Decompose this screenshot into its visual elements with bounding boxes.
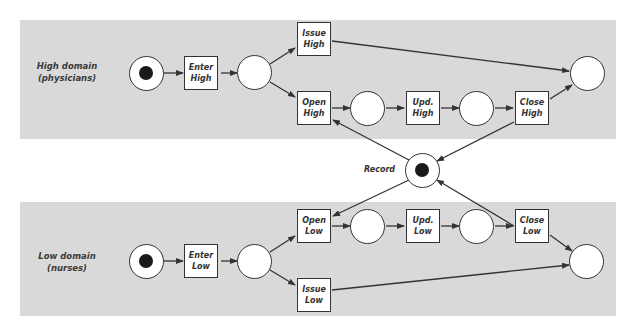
arc-close-high-to-record [437,122,514,161]
transition-label: Issue [302,28,326,39]
arc-close-low-to-end-low [550,235,572,251]
transition-open-high: Open High [297,91,331,125]
transition-label: High [191,73,212,84]
record-label: Record [364,165,395,174]
high-domain-title: High domain [22,60,112,72]
place-high-after-update [459,91,494,126]
low-domain-title: Low domain [22,250,112,262]
place-low-after-enter [237,244,272,279]
low-domain-label: Low domain (nurses) [22,250,112,274]
transition-update-low: Upd. Low [406,209,440,243]
transition-label: Enter [189,62,213,73]
transition-issue-low: Issue Low [297,278,331,312]
transition-label: Issue [302,284,326,295]
arc-record-to-open-high [333,120,409,160]
transition-enter-low: Enter Low [184,244,218,278]
transition-label: Low [523,226,541,237]
place-end-low [569,244,604,279]
petri-net-diagram: High domain (physicians) Enter High Issu… [0,0,628,335]
transition-label: Low [192,261,210,272]
arc-p1-to-open-high [270,82,295,97]
arc-issue-high-to-end-high [332,41,569,71]
place-record [405,153,440,188]
token-icon [139,254,153,268]
transition-enter-high: Enter High [184,56,218,90]
place-low-after-open [350,209,385,244]
transition-label: Upd. [413,215,434,226]
low-domain-role: (nurses) [22,262,112,274]
transition-label: Close [520,215,544,226]
transition-label: High [304,108,325,119]
transition-label: High [522,108,543,119]
high-domain-label: High domain (physicians) [22,60,112,84]
arc-p1-to-open-low [270,236,295,252]
transition-label: Low [305,226,323,237]
place-start-low [129,244,164,279]
place-high-after-open [350,91,385,126]
place-start-high [129,56,164,91]
transition-label: High [413,108,434,119]
transition-label: Open [302,97,326,108]
transition-issue-high: Issue High [297,22,331,56]
arc-issue-low-to-end-low [332,265,569,290]
token-icon [415,163,429,177]
transition-label: Enter [189,250,213,261]
arc-close-high-to-end-high [550,85,572,99]
transition-label: Upd. [413,97,434,108]
transition-close-high: Close High [515,91,549,125]
place-high-after-enter [237,55,272,90]
transition-label: Close [520,97,544,108]
transition-label: Open [302,215,326,226]
transition-update-high: Upd. High [406,91,440,125]
place-low-after-update [459,209,494,244]
arc-p1-to-issue-high [270,48,295,64]
transition-label: Low [305,295,323,306]
place-end-high [570,56,605,91]
transition-close-low: Close Low [515,209,549,243]
high-domain-role: (physicians) [22,72,112,84]
arc-p1-to-issue-low [270,270,295,285]
transition-label: High [304,39,325,50]
transition-open-low: Open Low [297,209,331,243]
transition-label: Low [414,226,432,237]
token-icon [139,66,153,80]
